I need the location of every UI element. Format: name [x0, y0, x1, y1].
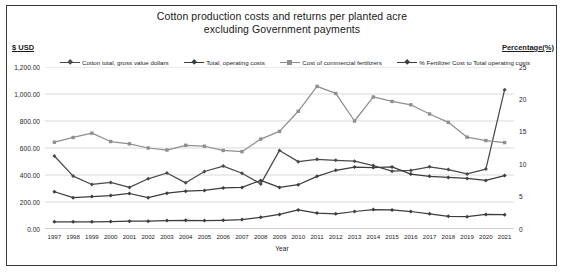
data-point — [90, 220, 94, 224]
data-point — [146, 219, 150, 223]
data-point — [240, 218, 244, 222]
data-point — [203, 145, 206, 148]
data-point — [90, 182, 94, 186]
data-point — [390, 208, 394, 212]
right-axis-title: Percentage(%) — [502, 43, 554, 52]
data-point — [353, 159, 357, 163]
data-point — [296, 183, 300, 187]
data-point — [221, 218, 225, 222]
data-point — [90, 195, 94, 199]
data-point — [503, 88, 507, 92]
y-tick-label: 800.00 — [0, 118, 40, 125]
data-point — [334, 212, 338, 216]
plot-svg — [45, 67, 514, 229]
data-point — [146, 146, 149, 149]
y-tick-label: 400.00 — [0, 172, 40, 179]
data-point — [71, 196, 75, 200]
data-point — [390, 165, 394, 169]
data-point — [259, 215, 263, 219]
data-point — [315, 211, 319, 215]
data-point — [278, 130, 281, 133]
data-point — [334, 168, 338, 172]
plot-area — [45, 67, 514, 229]
data-point — [109, 140, 112, 143]
data-point — [390, 100, 393, 103]
data-point — [184, 218, 188, 222]
data-point — [428, 165, 432, 169]
data-point — [296, 208, 300, 212]
data-point — [503, 213, 507, 217]
data-point — [409, 103, 412, 106]
y2-tick-label: 0 — [519, 226, 543, 233]
data-point — [334, 158, 338, 162]
legend-item-3[interactable]: % Fertilizer Cost to Total operating cos… — [397, 59, 530, 66]
legend-marker-diamond-icon — [60, 59, 80, 66]
legend-label: Cost of commercial fertilizers — [302, 59, 381, 66]
legend-item-0[interactable]: Cotton total, gross value dollars — [60, 59, 169, 66]
data-point — [297, 110, 300, 113]
series-line-0 — [54, 90, 504, 188]
data-point — [221, 164, 225, 168]
data-point — [390, 169, 394, 173]
chart-title: Cotton production costs and returns per … — [0, 10, 564, 36]
data-point — [127, 219, 131, 223]
chart-title-line1: Cotton production costs and returns per … — [157, 10, 407, 22]
data-point — [446, 168, 450, 172]
y-tick-label: 600.00 — [0, 145, 40, 152]
x-axis-title: Year — [0, 245, 564, 252]
data-point — [484, 167, 488, 171]
left-axis-title: $ USD — [12, 43, 34, 52]
data-point — [484, 178, 488, 182]
data-point — [446, 175, 450, 179]
y2-tick-label: 20 — [519, 96, 543, 103]
data-point — [353, 210, 357, 214]
data-point — [165, 191, 169, 195]
data-point — [202, 219, 206, 223]
chart-title-line2: excluding Government payments — [0, 23, 564, 36]
data-point — [503, 141, 506, 144]
data-point — [165, 219, 169, 223]
data-point — [165, 148, 168, 151]
y2-tick-label: 15 — [519, 128, 543, 135]
data-point — [484, 212, 488, 216]
data-point — [409, 168, 413, 172]
data-point — [90, 131, 93, 134]
legend-marker-diamond-icon — [397, 59, 417, 66]
data-point — [109, 194, 113, 198]
data-point — [222, 149, 225, 152]
data-point — [71, 136, 74, 139]
data-point — [428, 212, 432, 216]
data-point — [52, 190, 56, 194]
data-point — [146, 196, 150, 200]
data-point — [353, 119, 356, 122]
legend-item-2[interactable]: Cost of commercial fertilizers — [280, 59, 381, 66]
y-tick-label: 200.00 — [0, 199, 40, 206]
data-point — [428, 112, 431, 115]
data-point — [465, 215, 469, 219]
x-tick-label: 2021 — [492, 233, 518, 241]
legend-item-1[interactable]: Total, operating costs — [184, 59, 264, 66]
y2-tick-label: 25 — [519, 64, 543, 71]
data-point — [465, 176, 469, 180]
data-point — [484, 139, 487, 142]
data-point — [315, 85, 318, 88]
data-point — [465, 136, 468, 139]
data-point — [353, 165, 357, 169]
data-point — [146, 177, 150, 181]
data-point — [503, 174, 507, 178]
legend-label: % Fertilizer Cost to Total operating cos… — [419, 59, 530, 66]
data-point — [52, 220, 56, 224]
data-point — [278, 212, 282, 216]
data-point — [240, 185, 244, 189]
data-point — [315, 157, 319, 161]
y-tick-label: 1,200.00 — [0, 64, 40, 71]
data-point — [259, 137, 262, 140]
data-point — [240, 150, 243, 153]
legend-label: Total, operating costs — [206, 59, 264, 66]
data-point — [127, 185, 131, 189]
y2-tick-label: 10 — [519, 161, 543, 168]
data-point — [184, 144, 187, 147]
legend-marker-square-icon — [280, 59, 300, 66]
data-point — [409, 210, 413, 214]
data-point — [334, 92, 337, 95]
